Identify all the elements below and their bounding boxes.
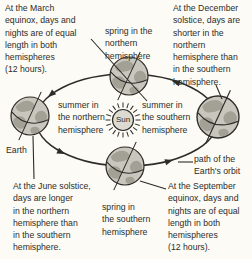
earth-label: Earth	[6, 144, 27, 156]
summer-south-label: summer inthe southernhemisphere	[142, 99, 190, 136]
march-equinox-note: At the Marchequinox, days andnights are …	[5, 2, 76, 76]
september-equinox-note: At the Septemberequinox, days andnights …	[168, 180, 239, 254]
september-note-pointer-line	[140, 181, 166, 189]
seasons-orbit-diagram: At the Marchequinox, days andnights are …	[0, 0, 252, 259]
spring-south-label: spring inthe southernhemisphere	[102, 201, 150, 238]
june-note-pointer-line	[33, 136, 34, 179]
orbit-path-label: path of theEarth's orbit	[194, 153, 240, 178]
sun-label: Sun	[112, 115, 134, 125]
earth-globe-december-icon	[197, 90, 239, 143]
december-solstice-note: At the Decembersolstice, days areshorter…	[173, 2, 240, 88]
earth-globe-september-icon	[106, 142, 144, 190]
orbit-arrow-bottom-right-icon	[164, 157, 173, 165]
june-solstice-note: At the June solstice,days are longerin t…	[13, 180, 91, 254]
earth-globe-june-icon	[11, 92, 49, 140]
spring-north-label: spring in thenorthernhemisphere	[105, 25, 152, 62]
summer-north-label: summer inthe northernhemisphere	[58, 99, 105, 136]
